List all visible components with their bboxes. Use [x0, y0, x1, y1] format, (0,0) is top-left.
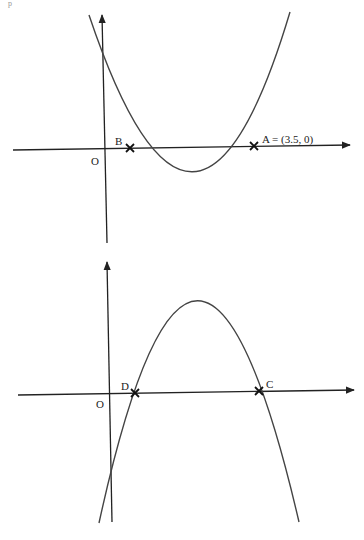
parabola-curve [99, 301, 299, 523]
corner-mark: p [8, 0, 12, 8]
origin-label: O [96, 398, 104, 410]
top-diagram: B A = (3.5, 0) O [13, 12, 350, 243]
y-axis [102, 15, 107, 243]
label-a: A = (3.5, 0) [262, 133, 313, 146]
x-axis [18, 390, 354, 395]
diagram-canvas: p B A = (3.5, 0) O D C O [0, 0, 364, 540]
bottom-diagram: D C O [18, 262, 354, 523]
x-axis [13, 145, 350, 150]
label-c: C [266, 378, 273, 390]
label-d: D [121, 380, 129, 392]
origin-label: O [91, 155, 99, 167]
label-b: B [115, 135, 122, 147]
